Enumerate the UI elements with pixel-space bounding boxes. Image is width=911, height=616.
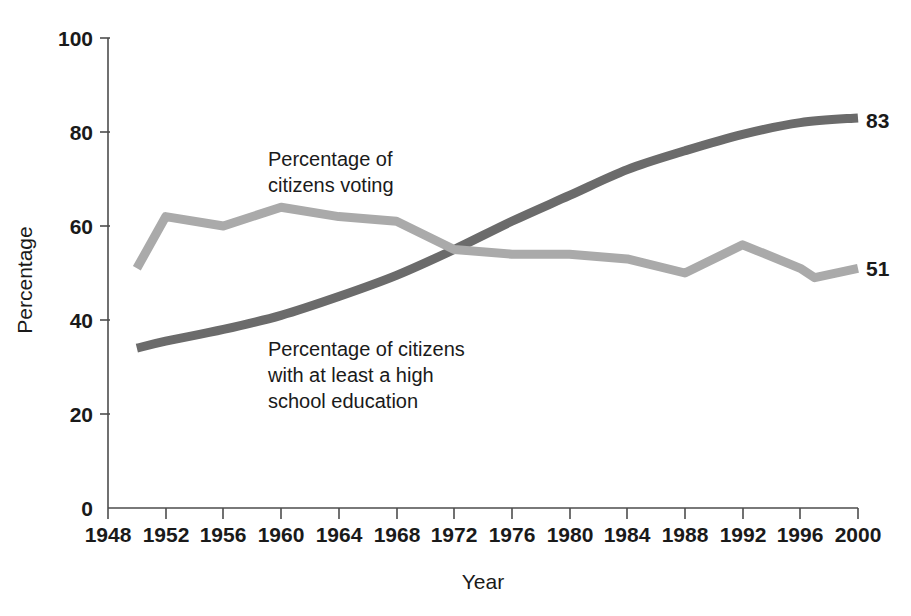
x-tick-label-1968: 1968 (374, 523, 421, 546)
voting-annotation-line-1: Percentage of (268, 148, 393, 170)
line-chart: Percentage 100 80 60 40 20 0 1948 (0, 0, 911, 616)
x-tick-label-1952: 1952 (143, 523, 190, 546)
education-annotation-line-3: school education (268, 390, 418, 412)
education-annotation-line-1: Percentage of citizens (268, 338, 465, 360)
y-tick-label-80: 80 (70, 121, 93, 144)
x-tick-label-1988: 1988 (662, 523, 709, 546)
x-tick-label-1956: 1956 (200, 523, 247, 546)
y-tick-label-20: 20 (70, 403, 93, 426)
education-annotation-line-2: with at least a high (267, 364, 434, 386)
y-tick-label-40: 40 (70, 309, 93, 332)
y-axis-title: Percentage (13, 226, 36, 333)
x-tick-label-1992: 1992 (720, 523, 767, 546)
voting-series-line (137, 207, 858, 278)
x-tick-label-1984: 1984 (604, 523, 651, 546)
y-tick-label-100: 100 (58, 27, 93, 50)
x-tick-label-1980: 1980 (547, 523, 594, 546)
x-axis-title: Year (462, 570, 504, 593)
chart-container: Percentage 100 80 60 40 20 0 1948 (0, 0, 911, 616)
education-end-label: 83 (866, 109, 889, 132)
x-tick-label-2000: 2000 (835, 523, 882, 546)
x-tick-label-1964: 1964 (316, 523, 363, 546)
x-tick-label-1960: 1960 (258, 523, 305, 546)
y-tick-label-60: 60 (70, 215, 93, 238)
education-series-line (137, 118, 858, 348)
voting-end-label: 51 (866, 257, 890, 280)
y-tick-label-0: 0 (81, 497, 93, 520)
x-tick-label-1976: 1976 (489, 523, 536, 546)
x-tick-label-1996: 1996 (777, 523, 824, 546)
x-tick-label-1972: 1972 (431, 523, 478, 546)
x-tick-label-1948: 1948 (85, 523, 132, 546)
voting-annotation-line-2: citizens voting (268, 174, 394, 196)
